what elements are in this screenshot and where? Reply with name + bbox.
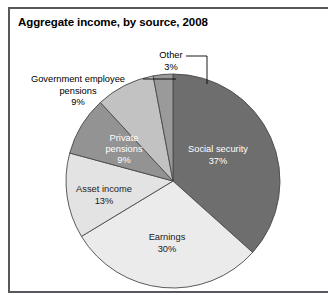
chart-figure: Aggregate income, by source, 2008 Social… <box>0 0 328 295</box>
pie-label-social-security: Social security <box>188 144 248 154</box>
pie-value-social-security: 37% <box>209 156 228 166</box>
pie-value-asset-income: 13% <box>95 196 114 206</box>
pie-label-earnings: Earnings <box>149 232 186 242</box>
pie-label-private-pensions: pensions <box>105 144 143 154</box>
pie-value-earnings: 30% <box>158 244 177 254</box>
pie-label-asset-income: Asset income <box>76 184 132 194</box>
pie-chart: Social security37%Earnings30%Asset incom… <box>0 0 328 295</box>
pie-label-private-pensions: Private <box>110 133 139 143</box>
pie-label-other: Other 3% <box>148 50 194 73</box>
pie-value-private-pensions: 9% <box>117 155 130 165</box>
pie-label-government-employee-pensions: Government employee pensions 9% <box>8 74 148 109</box>
